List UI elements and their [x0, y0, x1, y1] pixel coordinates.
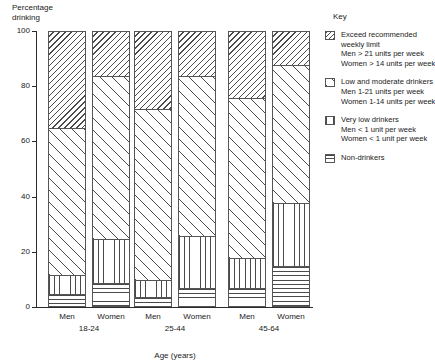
- y-tick-100: [32, 31, 36, 32]
- bar-men-18-24: [48, 31, 86, 307]
- y-axis-line: [36, 31, 37, 308]
- segment-non_drinkers: [229, 289, 265, 306]
- bar-label-women-25-44: Women: [170, 312, 224, 321]
- segment-very_low: [135, 281, 171, 298]
- legend-item-0-line-0: Exceed recommended: [341, 30, 425, 40]
- bar-women-45-64: [272, 31, 310, 307]
- segment-low_moderate: [135, 110, 171, 281]
- segment-exceed: [49, 31, 85, 129]
- bar-women-25-44: [178, 31, 216, 307]
- segment-non_drinkers: [93, 284, 129, 306]
- legend-item-0-line-2: Men > 21 units per week: [341, 49, 425, 59]
- legend-item-1-line-1: Men 1-21 units per week: [341, 87, 425, 97]
- segment-non_drinkers: [179, 289, 215, 306]
- legend-item-2-line-2: Women < 1 unit per week: [341, 134, 425, 144]
- legend-item-1-line-0: Low and moderate drinkers: [341, 77, 425, 87]
- bar-women-18-24: [92, 31, 130, 307]
- y-tick-40: [32, 197, 36, 198]
- x-axis-line: [36, 307, 313, 308]
- segment-non_drinkers: [273, 267, 309, 306]
- legend-items: Exceed recommendedweekly limitMen > 21 u…: [325, 30, 425, 163]
- segment-low_moderate: [229, 99, 265, 259]
- bar-label-women-45-64: Women: [264, 312, 318, 321]
- y-tick-label-20: 20: [21, 248, 30, 256]
- y-tick-label-40: 40: [21, 193, 30, 201]
- segment-low_moderate: [273, 66, 309, 204]
- legend-item-0: Exceed recommendedweekly limitMen > 21 u…: [325, 30, 425, 68]
- horizontal-lines-swatch: [325, 154, 335, 163]
- bar-men-45-64: [228, 31, 266, 307]
- legend: Key Exceed recommendedweekly limitMen > …: [325, 12, 425, 172]
- legend-item-1-line-2: Women 1-14 units per week: [341, 97, 425, 107]
- legend-item-0-line-1: weekly limit: [341, 40, 425, 50]
- group-label-18-24: 18-24: [49, 324, 129, 333]
- segment-low_moderate: [49, 129, 85, 275]
- vertical-lines-swatch: [325, 116, 335, 125]
- group-label-25-44: 25-44: [135, 324, 215, 333]
- segment-low_moderate: [93, 77, 129, 240]
- y-tick-60: [32, 141, 36, 142]
- segment-very_low: [93, 240, 129, 284]
- bar-men-25-44: [134, 31, 172, 307]
- segment-exceed: [135, 31, 171, 110]
- segment-low_moderate: [179, 77, 215, 237]
- y-tick-0: [32, 307, 36, 308]
- legend-item-3-line-0: Non-drinkers: [341, 153, 425, 163]
- y-tick-80: [32, 86, 36, 87]
- segment-very_low: [49, 276, 85, 295]
- legend-item-2-line-1: Men < 1 unit per week: [341, 125, 425, 135]
- legend-item-2: Very low drinkersMen < 1 unit per weekWo…: [325, 115, 425, 144]
- x-axis-title: Age (years): [37, 351, 313, 360]
- segment-very_low: [273, 204, 309, 267]
- legend-item-3: Non-drinkers: [325, 153, 425, 163]
- legend-title: Key: [333, 12, 425, 21]
- y-tick-label-100: 100: [17, 27, 30, 35]
- y-tick-label-80: 80: [21, 82, 30, 90]
- segment-exceed: [229, 31, 265, 99]
- plot-area: 020406080100 MenWomenMenWomenMenWomen 18…: [37, 31, 313, 307]
- segment-exceed: [93, 31, 129, 77]
- diagonal-sparse-hatch-swatch: [325, 78, 335, 87]
- legend-item-1: Low and moderate drinkersMen 1-21 units …: [325, 77, 425, 106]
- legend-item-0-line-3: Women > 14 units per week: [341, 59, 425, 69]
- segment-exceed: [273, 31, 309, 66]
- legend-item-2-line-0: Very low drinkers: [341, 115, 425, 125]
- y-tick-label-0: 0: [26, 303, 30, 311]
- y-tick-label-60: 60: [21, 137, 30, 145]
- group-label-45-64: 45-64: [229, 324, 309, 333]
- segment-non_drinkers: [49, 295, 85, 306]
- segment-non_drinkers: [135, 298, 171, 306]
- segment-very_low: [229, 259, 265, 289]
- segment-very_low: [179, 237, 215, 289]
- y-tick-20: [32, 252, 36, 253]
- diagonal-dense-hatch-swatch: [325, 31, 335, 40]
- y-axis-title: Percentage drinking: [12, 3, 82, 23]
- segment-exceed: [179, 31, 215, 77]
